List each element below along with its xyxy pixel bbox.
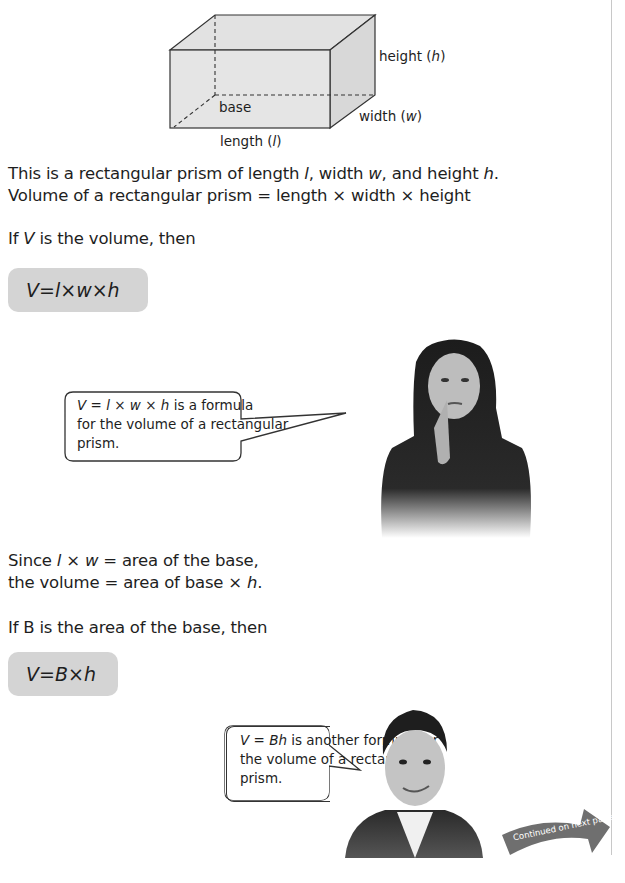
- intro-line-2: Volume of a rectangular prism = length ×…: [8, 185, 471, 207]
- rectangular-prism-diagram: [160, 0, 460, 170]
- girl-thinking-photo: [372, 338, 542, 538]
- since-line-2: the volume = area of base × h.: [8, 572, 262, 594]
- formula-box-lwh: V = l × w × h: [8, 268, 148, 312]
- boy-smiling-photo: [335, 700, 495, 858]
- formula-box-bh: V = B × h: [8, 652, 118, 696]
- if-b-line: If B is the area of the base, then: [8, 617, 267, 639]
- bubble-1-text: V = l × w × h is a formula for the volum…: [77, 396, 288, 453]
- label-width: width (w): [359, 108, 422, 124]
- label-length: length (l): [220, 133, 282, 149]
- page-margin-rule: [611, 0, 612, 855]
- label-height: height (h): [379, 48, 445, 64]
- if-v-line: If V is the volume, then: [8, 228, 196, 250]
- label-base: base: [219, 99, 251, 115]
- intro-line-1: This is a rectangular prism of length l,…: [8, 163, 499, 185]
- since-line-1: Since l × w = area of the base,: [8, 550, 259, 572]
